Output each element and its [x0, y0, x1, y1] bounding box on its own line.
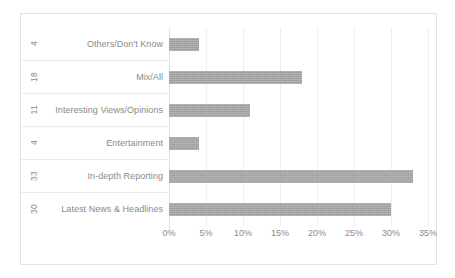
value-cell: 11: [21, 94, 47, 127]
category-cell: Entertainment: [47, 127, 169, 160]
x-tick-label: 5%: [199, 228, 212, 238]
category-cell: Interesting Views/Opinions: [47, 94, 169, 127]
gridline: [428, 28, 429, 226]
bar-row: [169, 61, 428, 94]
x-tick-label: 10%: [234, 228, 252, 238]
bar-value-label: 30: [29, 204, 39, 214]
x-tick-label: 0%: [162, 228, 175, 238]
bar: [169, 38, 199, 51]
category-label: Latest News & Headlines: [61, 204, 163, 214]
x-axis: 0%5%10%15%20%25%30%35%: [169, 228, 428, 250]
bar-series: [169, 28, 428, 226]
x-tick-label: 20%: [308, 228, 326, 238]
bar-row: [169, 160, 428, 193]
bar-row: [169, 193, 428, 226]
bar-value-label: 4: [29, 140, 39, 145]
category-label: In-depth Reporting: [88, 171, 163, 181]
bar-row: [169, 127, 428, 160]
x-tick-label: 25%: [345, 228, 363, 238]
category-label: Others/Don't Know: [87, 39, 163, 49]
bar: [169, 137, 199, 150]
value-cell: 4: [21, 127, 47, 160]
x-tick-label: 35%: [419, 228, 437, 238]
bar: [169, 104, 250, 117]
value-label-column: 4181143330: [21, 28, 47, 226]
bar-value-label: 33: [29, 171, 39, 181]
value-cell: 18: [21, 61, 47, 94]
category-label-column: Others/Don't KnowMix/AllInteresting View…: [47, 28, 169, 226]
category-label: Interesting Views/Opinions: [55, 105, 163, 115]
category-label: Entertainment: [106, 138, 163, 148]
bar-value-label: 18: [29, 72, 39, 82]
bar-row: [169, 94, 428, 127]
value-cell: 30: [21, 193, 47, 226]
value-cell: 33: [21, 160, 47, 193]
category-cell: Mix/All: [47, 61, 169, 94]
x-tick-label: 15%: [271, 228, 289, 238]
bar-row: [169, 28, 428, 61]
value-cell: 4: [21, 28, 47, 61]
x-tick-label: 30%: [382, 228, 400, 238]
category-cell: In-depth Reporting: [47, 160, 169, 193]
category-label: Mix/All: [136, 72, 163, 82]
bar-value-label: 4: [29, 41, 39, 46]
category-cell: Latest News & Headlines: [47, 193, 169, 226]
bar: [169, 203, 391, 216]
chart-container: 4181143330 Others/Don't KnowMix/AllInter…: [20, 13, 437, 265]
bar: [169, 71, 302, 84]
plot-area: 4181143330 Others/Don't KnowMix/AllInter…: [21, 14, 436, 264]
category-cell: Others/Don't Know: [47, 28, 169, 61]
bar: [169, 170, 413, 183]
bar-value-label: 11: [29, 105, 39, 114]
